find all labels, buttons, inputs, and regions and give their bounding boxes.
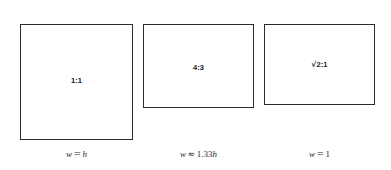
aspect-ratio-label-sqrt2-1: √2:1: [264, 61, 375, 69]
aspect-ratio-caption-4-3: w≈1.33h: [143, 150, 254, 159]
caption-value-1-3: 1: [326, 149, 331, 159]
ratio-suffix-1: :1: [321, 60, 328, 69]
caption-operator-approx-2: ≈: [186, 149, 197, 159]
caption-value-h-1: h: [83, 149, 88, 159]
caption-unit-h-2: h: [212, 149, 217, 159]
aspect-ratio-figure: 1:1 w=h 4:3 w≈1.33h √2:1 w=1: [0, 0, 391, 170]
caption-value-133-2: 1.33: [197, 149, 213, 159]
caption-operator-equals-3: =: [315, 149, 326, 159]
caption-operator-equals-1: =: [72, 149, 83, 159]
aspect-ratio-label-1-1: 1:1: [20, 77, 133, 85]
aspect-ratio-caption-sqrt2-1: w=1: [264, 150, 375, 159]
aspect-ratio-label-4-3: 4:3: [143, 64, 254, 72]
aspect-ratio-caption-1-1: w=h: [20, 150, 133, 159]
